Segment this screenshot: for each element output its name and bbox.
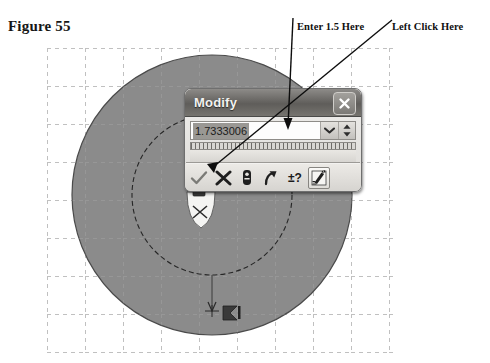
dialog-filler-area	[190, 150, 356, 162]
lock-button[interactable]	[236, 167, 258, 189]
checkmark-icon	[190, 170, 208, 186]
dialog-title: Modify	[194, 95, 237, 110]
callout-enter-value: Enter 1.5 Here	[297, 21, 364, 32]
plus-minus-question-icon: ±?	[288, 172, 302, 184]
modify-dialog[interactable]: Modify 1.7333006	[184, 88, 362, 192]
accept-button[interactable]	[188, 167, 210, 189]
reverse-direction-button[interactable]	[260, 167, 282, 189]
edit-units-button[interactable]	[308, 167, 330, 189]
pencil-measure-icon	[311, 170, 327, 186]
close-icon	[338, 97, 351, 110]
dialog-titlebar[interactable]: Modify	[185, 89, 361, 117]
figure-label: Figure 55	[8, 18, 71, 35]
callout-left-click: Left Click Here	[392, 21, 463, 32]
cancel-button[interactable]	[212, 167, 234, 189]
close-button[interactable]	[333, 92, 356, 115]
dialog-body: 1.7333006	[185, 117, 361, 162]
value-input[interactable]: 1.7333006	[191, 122, 320, 139]
cross-x-icon	[215, 170, 232, 186]
lock-icon	[241, 169, 253, 186]
value-spinner[interactable]	[338, 122, 355, 139]
tolerance-button[interactable]: ±?	[284, 167, 306, 189]
value-ruler-slider[interactable]	[190, 142, 356, 150]
curved-arrow-icon	[263, 169, 280, 186]
value-row[interactable]: 1.7333006	[190, 121, 356, 140]
dialog-toolbar: ±?	[185, 164, 361, 191]
chevron-down-icon	[324, 127, 335, 134]
spinner-up-down-icon	[342, 123, 352, 138]
value-dropdown-button[interactable]	[320, 122, 338, 139]
value-input-text: 1.7333006	[193, 123, 249, 139]
